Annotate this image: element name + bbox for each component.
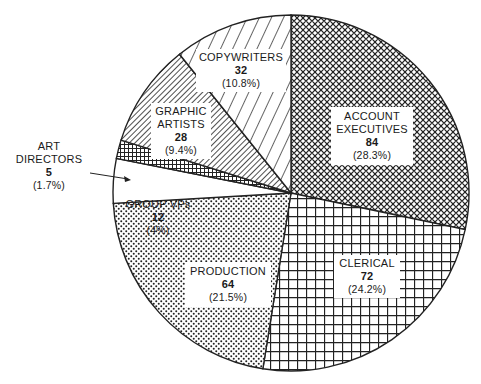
slice-value: 84 <box>331 136 413 149</box>
slice-name: CLERICAL <box>334 257 400 270</box>
label-art-directors: ART DIRECTORS 5 (1.7%) <box>14 140 84 192</box>
slice-percent: (10.8%) <box>196 77 286 90</box>
slice-percent: (24.2%) <box>334 283 400 296</box>
slice-percent: (21.5%) <box>185 291 271 304</box>
slice-percent: (28.3%) <box>331 149 413 162</box>
slice-percent: (4%) <box>118 224 198 237</box>
slice-name: ACCOUNT <box>331 110 413 123</box>
slice-name: ART <box>14 140 84 153</box>
slice-value: 28 <box>151 131 211 144</box>
slice-name: ARTISTS <box>151 118 211 131</box>
label-copywriters: COPYWRITERS 32 (10.8%) <box>196 49 286 92</box>
slice-value: 32 <box>196 64 286 77</box>
slice-name: PRODUCTION <box>185 265 271 278</box>
label-group-vps: GROUP VPs 12 (4%) <box>118 198 198 237</box>
slice-name: EXECUTIVES <box>331 123 413 136</box>
label-graphic-artists: GRAPHIC ARTISTS 28 (9.4%) <box>151 103 211 159</box>
slice-percent: (1.7%) <box>14 179 84 192</box>
slice-value: 12 <box>118 211 198 224</box>
slice-name: GROUP VPs <box>118 198 198 211</box>
label-account-executives: ACCOUNT EXECUTIVES 84 (28.3%) <box>331 107 413 165</box>
slice-name: DIRECTORS <box>14 153 84 166</box>
slice-value: 72 <box>334 270 400 283</box>
slice-value: 5 <box>14 166 84 179</box>
slice-name: COPYWRITERS <box>196 51 286 64</box>
slice-percent: (9.4%) <box>151 144 211 157</box>
label-production: PRODUCTION 64 (21.5%) <box>185 262 271 307</box>
slice-value: 64 <box>185 278 271 291</box>
pie-slices <box>113 15 469 371</box>
slice-name: GRAPHIC <box>151 105 211 118</box>
label-clerical: CLERICAL 72 (24.2%) <box>334 255 400 298</box>
